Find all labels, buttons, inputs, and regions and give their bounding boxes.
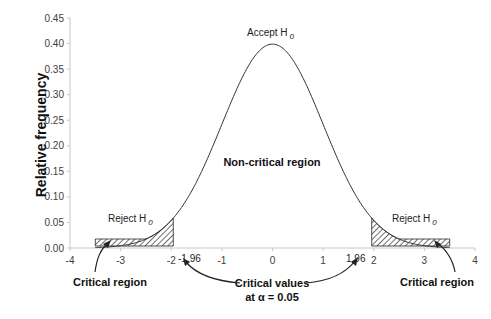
x-tick-label: 3: [422, 255, 428, 266]
critical-values-label: Critical values: [235, 277, 310, 289]
x-tick-label: 1: [320, 255, 326, 266]
non-critical-label: Non-critical region: [223, 156, 320, 168]
arrow-critical-values-right: [306, 261, 355, 283]
x-tick-label: 0: [270, 255, 276, 266]
reject-left-label: Reject H0: [108, 213, 153, 227]
x-tick-label: 2: [371, 255, 377, 266]
critical-value-left: -1.96: [178, 253, 201, 264]
x-tick-label: -3: [116, 255, 125, 266]
reject-right-label: Reject H0: [392, 213, 437, 227]
critical-region-right-label: Critical region: [400, 276, 474, 288]
x-tick-label: -1: [217, 255, 226, 266]
x-axis: -4-3-2-101234: [66, 248, 479, 266]
y-tick-label: 0.05: [45, 217, 65, 228]
x-tick-label: -2: [167, 255, 176, 266]
y-tick-label: 0.00: [45, 243, 65, 254]
x-tick-label: -4: [66, 255, 75, 266]
accept-label: Accept H0: [247, 27, 295, 41]
chart-canvas: 0.000.050.100.150.200.250.300.350.400.45…: [0, 0, 491, 319]
y-tick-label: 0.45: [45, 13, 65, 24]
alpha-label: at α = 0.05: [245, 291, 299, 303]
arrow-critical-values-left: [186, 262, 240, 283]
x-tick-label: 4: [472, 255, 478, 266]
y-axis-label: Relative frequency: [33, 73, 49, 198]
critical-region-left-label: Critical region: [73, 276, 147, 288]
y-tick-label: 0.40: [45, 38, 65, 49]
